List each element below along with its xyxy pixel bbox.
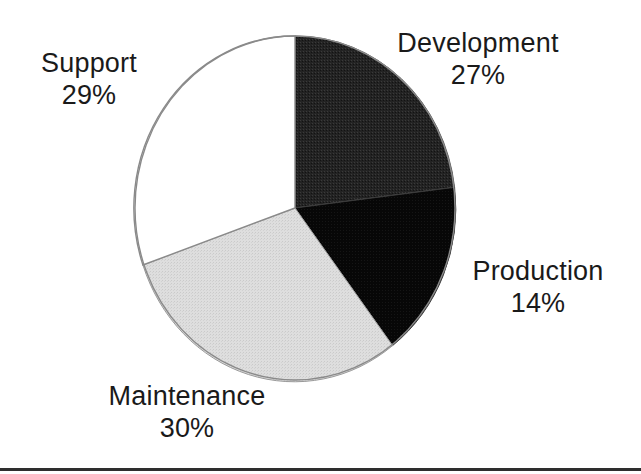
pie-label-maintenance-value: 30% (87, 413, 287, 445)
pie-label-maintenance: Maintenance 30% (87, 381, 287, 445)
pie-label-production: Production 14% (443, 256, 633, 320)
pie-label-production-value: 14% (443, 288, 633, 320)
pie-label-development-name: Development (383, 28, 573, 60)
pie-label-development-value: 27% (383, 60, 573, 92)
pie-label-production-name: Production (443, 256, 633, 288)
bottom-divider (0, 468, 641, 471)
pie-label-support-value: 29% (14, 80, 164, 112)
pie-label-maintenance-name: Maintenance (87, 381, 287, 413)
pie-chart-figure: Development 27% Support 29% Production 1… (0, 0, 641, 474)
pie-label-support-name: Support (14, 48, 164, 80)
pie-label-support: Support 29% (14, 48, 164, 112)
pie-label-development: Development 27% (383, 28, 573, 92)
